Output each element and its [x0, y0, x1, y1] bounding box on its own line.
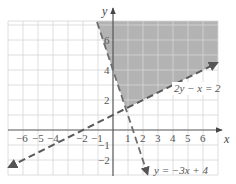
x-axis-label: x: [223, 132, 230, 146]
y-tick: 2: [104, 94, 110, 106]
y-tick: −2: [98, 154, 110, 166]
x-tick: −5: [32, 132, 44, 144]
x-tick-labels: −6 −5 −4 −2 −1 1 2 3 4 5 6: [16, 132, 206, 144]
equation-label-y-3x: y = −3x + 4: [153, 164, 209, 176]
x-tick: −6: [16, 132, 28, 144]
x-tick: 6: [200, 132, 206, 144]
equation-label-2y-x: 2y − x = 2: [174, 82, 221, 94]
x-tick: −4: [47, 132, 59, 144]
x-tick: 3: [155, 132, 161, 144]
y-axis-label: y: [101, 4, 108, 18]
x-tick: 2: [140, 132, 146, 144]
x-tick: 5: [185, 132, 191, 144]
x-tick: 4: [170, 132, 176, 144]
x-tick: 1: [125, 132, 131, 144]
y-tick: 4: [104, 64, 110, 76]
y-tick: −1: [98, 139, 110, 151]
inequality-graph: x y −6 −5 −4 −2 −1 1 2 3 4 5 6 6 4 2 −1 …: [0, 0, 236, 184]
solution-region: [97, 21, 218, 109]
x-tick: −2: [76, 132, 88, 144]
